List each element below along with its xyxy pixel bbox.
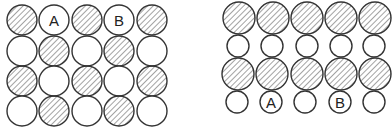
hatched-circle	[257, 2, 289, 34]
hatched-circle	[222, 58, 254, 90]
plain-circle	[72, 36, 102, 66]
plain-circle	[226, 91, 248, 113]
hatched-circle	[256, 58, 288, 90]
plain-circle	[363, 91, 385, 113]
plain-circle	[104, 66, 134, 96]
hatched-circle	[359, 58, 391, 90]
plain-circle	[72, 96, 102, 126]
plain-circle	[294, 91, 316, 113]
hatched-circle	[104, 36, 134, 66]
figure-canvas: AB AB	[0, 0, 392, 140]
plain-circle	[7, 36, 37, 66]
hatched-circle	[325, 58, 357, 90]
plain-circle	[330, 35, 352, 57]
circle-label: A	[49, 12, 59, 29]
hatched-circle	[72, 66, 102, 96]
plain-circle	[137, 36, 167, 66]
hatched-circle	[325, 2, 357, 34]
circle-arrangement-figure: AB AB	[0, 0, 392, 140]
hatched-circle	[39, 36, 69, 66]
hatched-circle	[137, 5, 167, 35]
hatched-circle	[291, 2, 323, 34]
circle-label: A	[266, 94, 276, 111]
hatched-circle	[7, 5, 37, 35]
hatched-circle	[137, 66, 167, 96]
circle-label: B	[114, 12, 124, 29]
hatched-circle	[223, 2, 255, 34]
plain-circle	[137, 96, 167, 126]
circle-label: B	[335, 94, 345, 111]
hatched-circle	[291, 58, 323, 90]
plain-circle	[363, 35, 385, 57]
hatched-circle	[72, 5, 102, 35]
plain-circle	[227, 35, 249, 57]
hatched-circle	[39, 96, 69, 126]
hatched-circle	[359, 2, 391, 34]
plain-circle	[7, 96, 37, 126]
left-arrangement: AB	[7, 5, 167, 126]
hatched-circle	[104, 96, 134, 126]
plain-circle	[39, 66, 69, 96]
plain-circle	[261, 35, 283, 57]
right-arrangement: AB	[222, 2, 391, 113]
plain-circle	[296, 35, 318, 57]
hatched-circle	[7, 66, 37, 96]
